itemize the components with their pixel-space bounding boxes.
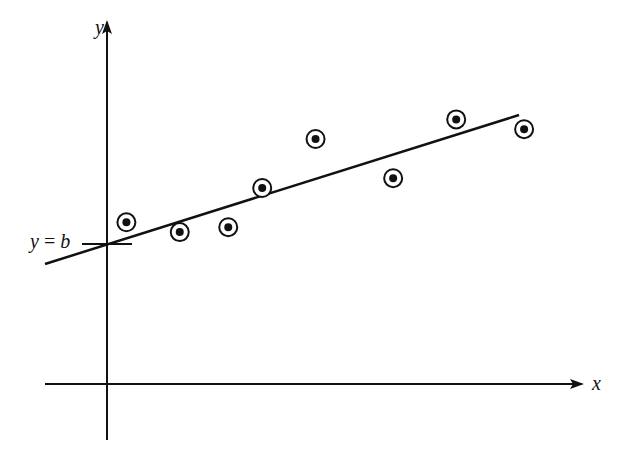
data-point-dot — [452, 115, 460, 123]
data-point-dot — [224, 223, 232, 231]
data-point-dot — [258, 184, 266, 192]
intercept-eq: = — [44, 230, 55, 252]
intercept-b: b — [60, 230, 70, 252]
fit-line — [45, 115, 519, 264]
data-point-dot — [176, 228, 184, 236]
data-point-dot — [312, 135, 320, 143]
data-point-dot — [389, 174, 397, 182]
intercept-label: y = b — [30, 230, 70, 253]
regression-plot — [0, 0, 640, 462]
x-axis-label: x — [592, 372, 601, 395]
y-axis-label: y — [95, 16, 104, 39]
data-point-dot — [122, 218, 130, 226]
data-point-dot — [520, 125, 528, 133]
intercept-y: y — [30, 230, 39, 252]
